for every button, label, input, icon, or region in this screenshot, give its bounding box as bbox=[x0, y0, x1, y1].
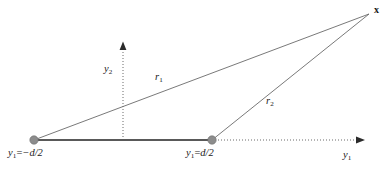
label-source-right-value: d/2 bbox=[200, 147, 213, 158]
label-axis-horizontal: y1 bbox=[343, 150, 351, 162]
label-source-right-var: y bbox=[186, 147, 191, 158]
label-axis-vertical: y2 bbox=[104, 64, 112, 76]
label-source-right: y1=d/2 bbox=[186, 148, 214, 160]
horizontal-axis-dotted bbox=[212, 136, 365, 143]
label-ray-r1: r1 bbox=[155, 72, 163, 84]
label-field-point: x bbox=[374, 5, 379, 15]
label-source-left-value: −d/2 bbox=[22, 147, 43, 158]
vertical-axis-arrowhead-icon bbox=[120, 42, 127, 51]
label-ray-r1-sub: 1 bbox=[159, 76, 163, 84]
source-node-right bbox=[208, 136, 216, 144]
ray-r1-line bbox=[34, 14, 369, 140]
horizontal-axis-arrowhead-icon bbox=[356, 136, 365, 143]
source-node-left bbox=[30, 136, 38, 144]
label-ray-r2: r2 bbox=[266, 96, 274, 108]
figure-canvas: y1=−d/2 y1=d/2 y1 y2 r1 r2 x bbox=[0, 0, 389, 173]
vertical-axis-dotted bbox=[120, 42, 127, 141]
label-axis-vertical-sub: 2 bbox=[109, 68, 113, 76]
label-axis-vertical-var: y bbox=[104, 63, 109, 74]
label-ray-r2-sub: 2 bbox=[270, 100, 274, 108]
ray-r2-line bbox=[212, 14, 369, 140]
label-source-left: y1=−d/2 bbox=[8, 148, 43, 160]
label-source-left-var: y bbox=[8, 147, 13, 158]
label-axis-horizontal-sub: 1 bbox=[348, 154, 352, 162]
label-axis-horizontal-var: y bbox=[343, 149, 348, 160]
